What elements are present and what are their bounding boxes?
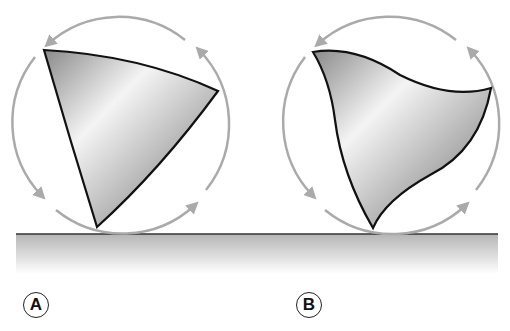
diagram-canvas xyxy=(0,0,510,331)
panel-label-a: A xyxy=(23,292,49,318)
panel-label-b: B xyxy=(296,292,322,318)
curved-triangle-a xyxy=(44,50,218,227)
ground-surface xyxy=(16,234,498,274)
curved-triangle-b xyxy=(313,51,491,228)
